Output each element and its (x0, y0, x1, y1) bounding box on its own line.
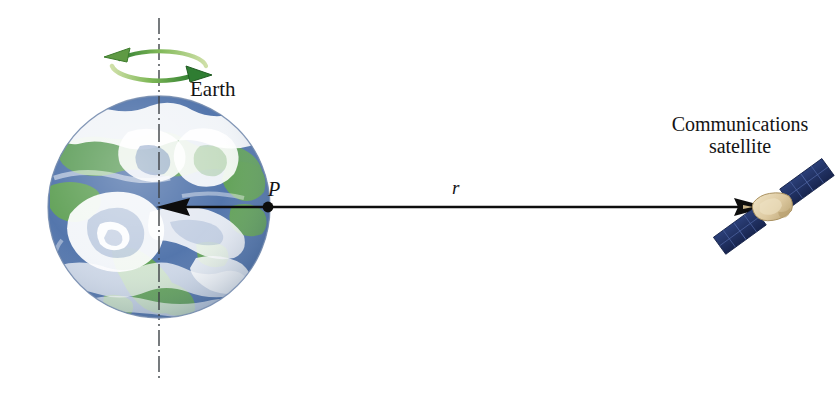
communications-satellite-label: Communications satellite (645, 113, 835, 158)
point-p-marker (263, 202, 274, 213)
satellite-label-line-2: satellite (645, 135, 835, 157)
diagram-svg (0, 0, 840, 401)
radius-label: r (452, 177, 459, 198)
earth-label: Earth (190, 78, 235, 102)
satellite-label-line-1: Communications (645, 113, 835, 135)
rotation-arrow-back (104, 48, 206, 66)
point-p-label: P (268, 178, 280, 200)
physics-figure-canvas: Earth P r Communications satellite (0, 0, 840, 401)
